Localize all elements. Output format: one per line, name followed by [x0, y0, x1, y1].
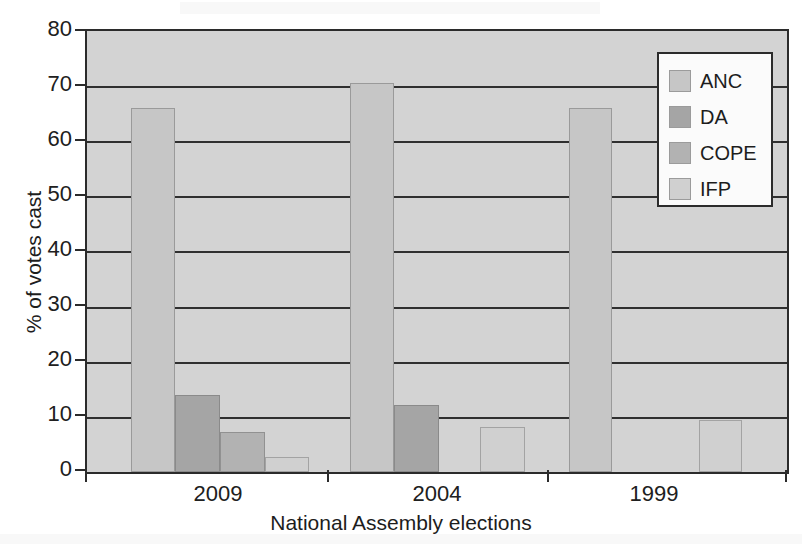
legend-swatch-icon-ifp [669, 178, 691, 200]
bar-2009-anc [131, 108, 175, 472]
y-tick-label: 70 [26, 73, 72, 95]
y-axis-title: % of votes cast [22, 132, 46, 392]
x-tick-mark [85, 470, 87, 482]
y-tick-label: 10 [26, 403, 72, 425]
legend-swatch-icon-cope [669, 142, 691, 164]
x-tick-label-2004: 2004 [377, 481, 497, 507]
chart-legend: ANC DA COPE IFP [657, 52, 773, 207]
x-axis-title: National Assembly elections [0, 511, 802, 535]
bar-chart-figure: 80 70 60 50 40 30 20 10 0 % of votes cas… [0, 0, 802, 544]
gridline [87, 251, 787, 253]
legend-swatch-icon-da [669, 106, 691, 128]
legend-entry-cope: COPE [669, 136, 771, 170]
bar-1999-ifp [699, 420, 742, 472]
x-tick-mark [327, 470, 329, 482]
legend-label-cope: COPE [700, 142, 757, 165]
gridline [87, 362, 787, 364]
bar-1999-anc [569, 108, 612, 472]
bar-2009-cope [220, 432, 265, 472]
bar-2009-da [175, 395, 220, 472]
page-artifact [0, 534, 802, 544]
legend-entry-ifp: IFP [669, 172, 771, 206]
gridline [87, 307, 787, 309]
y-tick-label: 80 [26, 18, 72, 40]
plot-area: ANC DA COPE IFP [85, 29, 789, 474]
legend-label-ifp: IFP [700, 178, 731, 201]
legend-swatch-icon-anc [669, 70, 691, 92]
legend-entry-da: DA [669, 100, 771, 134]
page-artifact [180, 2, 600, 14]
y-tick-label: 0 [26, 458, 72, 480]
x-tick-mark [785, 470, 787, 482]
bar-2004-anc [350, 83, 394, 472]
bar-2004-da [394, 405, 439, 472]
x-tick-label-1999: 1999 [594, 481, 714, 507]
x-tick-label-2009: 2009 [158, 481, 278, 507]
legend-label-anc: ANC [700, 70, 742, 93]
bar-2004-ifp [480, 427, 525, 472]
legend-entry-anc: ANC [669, 64, 771, 98]
bar-2009-ifp [265, 457, 309, 472]
legend-label-da: DA [700, 106, 728, 129]
x-tick-mark [547, 470, 549, 482]
